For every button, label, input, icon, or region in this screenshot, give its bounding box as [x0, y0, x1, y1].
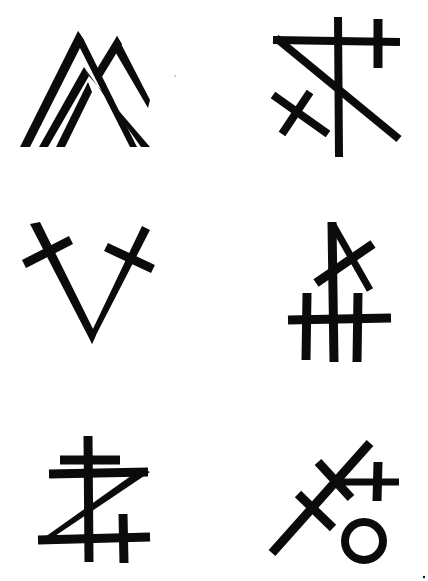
- page-speck: [174, 75, 176, 77]
- v-cross-sigil-icon: [24, 222, 153, 344]
- staff-circle-sigil-icon: [272, 443, 399, 560]
- page-speck-corner: [423, 576, 425, 578]
- triangle-cross-sigil-icon: [273, 17, 400, 157]
- z-cross-sigil-icon: [38, 436, 150, 563]
- triple-bar-cross-sigil-icon: [288, 222, 391, 362]
- symbol-sheet: [0, 0, 428, 581]
- triple-peak-sigil-icon: [20, 31, 150, 147]
